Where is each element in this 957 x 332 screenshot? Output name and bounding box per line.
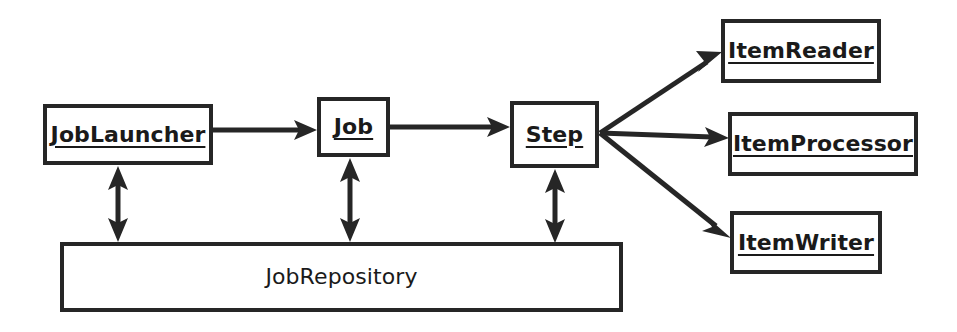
edge-step-to-job-repository	[545, 169, 565, 243]
node-label-step: Step	[526, 124, 583, 146]
node-item-writer[interactable]: ItemWriter	[730, 211, 882, 274]
node-label-item-reader: ItemReader	[728, 40, 874, 62]
edge-job-launcher-to-job	[213, 120, 317, 140]
node-label-job-launcher: JobLauncher	[51, 124, 206, 146]
node-item-processor[interactable]: ItemProcessor	[728, 112, 918, 176]
node-label-job-repository: JobRepository	[265, 266, 417, 288]
node-step[interactable]: Step	[510, 101, 599, 168]
edge-step-to-item-writer	[600, 133, 731, 238]
edge-job-to-job-repository	[340, 158, 360, 242]
node-job-launcher[interactable]: JobLauncher	[43, 104, 213, 165]
edge-job-launcher-to-job-repository	[108, 166, 128, 242]
edge-step-to-item-reader	[600, 51, 722, 133]
node-item-reader[interactable]: ItemReader	[721, 19, 881, 83]
architecture-diagram: JobLauncher Job Step ItemReader ItemProc…	[0, 0, 957, 332]
node-label-item-writer: ItemWriter	[738, 232, 874, 254]
node-job-repository[interactable]: JobRepository	[60, 242, 623, 312]
edge-step-to-item-processor	[600, 127, 729, 147]
edge-job-to-step	[390, 117, 510, 137]
node-job[interactable]: Job	[317, 97, 390, 157]
node-label-job: Job	[334, 116, 373, 138]
node-label-item-processor: ItemProcessor	[733, 133, 913, 155]
